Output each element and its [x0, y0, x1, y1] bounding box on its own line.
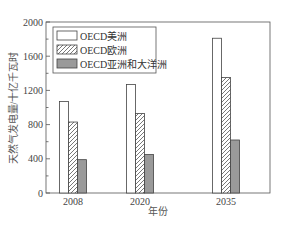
y-tick-label: 1200 — [23, 85, 43, 96]
bar — [78, 160, 87, 193]
y-tick-label: 2000 — [23, 17, 43, 28]
y-tick-label: 1600 — [23, 51, 43, 62]
bar — [127, 84, 136, 193]
bar — [213, 38, 222, 193]
legend-swatch — [57, 59, 77, 68]
y-tick-label: 0 — [38, 188, 43, 199]
y-tick-label: 400 — [28, 153, 43, 164]
bar-chart: 0400800120016002000 200820202035 OECD美洲O… — [0, 0, 282, 227]
y-axis-title: 天然气发电量/十亿千瓦时 — [7, 52, 19, 165]
legend-label: OECD欧洲 — [80, 45, 127, 56]
y-tick-label: 800 — [28, 119, 43, 130]
x-tick-label: 2020 — [130, 196, 150, 207]
bar — [69, 122, 78, 193]
legend: OECD美洲OECD欧洲OECD亚洲和大洋洲 — [53, 27, 167, 73]
legend-swatch — [57, 45, 77, 54]
bar — [231, 140, 240, 193]
bar — [222, 78, 231, 193]
x-tick-label: 2008 — [63, 196, 83, 207]
x-tick-label: 2035 — [216, 196, 236, 207]
bar — [136, 113, 145, 193]
legend-label: OECD亚洲和大洋洲 — [80, 58, 167, 70]
x-axis-title: 年份 — [148, 205, 168, 217]
legend-label: OECD美洲 — [80, 30, 127, 42]
bar — [60, 102, 69, 193]
bar — [145, 155, 154, 193]
legend-swatch — [57, 31, 77, 40]
